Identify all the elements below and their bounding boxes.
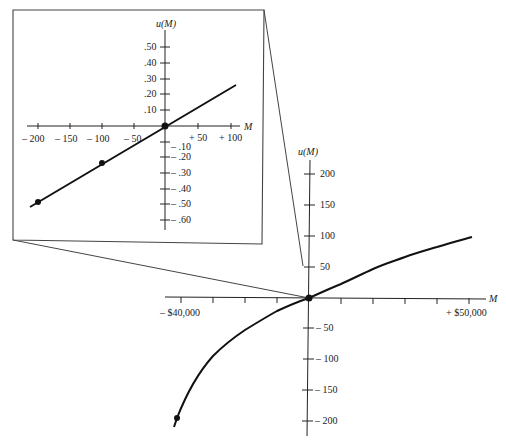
inset-y-tick-label: – .20 [170,151,191,162]
inset-y-axis-label: u(M) [156,18,177,30]
inset-y-tick-label: – .30 [170,167,191,178]
inset-frame [13,10,264,244]
inset-point-origin [162,123,169,130]
inset-y-tick-label: – .50 [170,198,191,209]
zoom-connector-top [264,10,303,266]
zoom-connector-bottom [13,240,309,298]
inset-x-tick-label: – 150 [54,133,78,144]
inset-y-tick-label: .40 [144,57,157,68]
main-y-axis-label: u(M) [298,146,319,158]
main-y-tick-label: 200 [320,168,335,179]
main-y-tick-label: – 200 [314,415,338,426]
inset-point-minus-200 [35,199,41,205]
inset-y-tick-label: .50 [144,41,157,52]
inset-x-tick-label: – 200 [21,133,45,144]
main-point-origin [306,295,313,302]
main-y-tick-label: – 150 [314,384,338,395]
inset-x-tick-label: + 50 [189,132,207,143]
inset-point-minus-100 [99,160,105,166]
inset-y-tick-label: .10 [144,104,157,115]
inset-x-tick-label: – 100 [86,133,110,144]
main-y-tick-label: 50 [320,261,330,272]
inset-x-tick-label: + 100 [219,132,242,143]
main-x-tick-label-left: – $40,000 [159,307,200,318]
inset-y-tick-label: – .40 [170,183,191,194]
main-x-tick-label-right: + $50,000 [446,307,487,318]
main-y-tick-label: 150 [320,199,335,210]
utility-chart-figure: u(M) M – 200 – 150 – 100 – 50 + 50 + 100… [0,0,506,445]
main-y-tick-label: – 100 [315,353,339,364]
inset-y-tick-label: .20 [144,88,157,99]
inset-y-tick-label: .30 [144,73,157,84]
main-x-axis-label: M [488,293,498,304]
inset-x-axis-label: M [243,121,253,132]
inset-x-tick-label: – 50 [123,133,142,144]
main-y-tick-label: – 50 [315,322,334,333]
main-y-tick-label: 100 [320,230,335,241]
main-point-minus-40000 [174,415,180,421]
inset-y-tick-label: – .60 [170,214,191,225]
